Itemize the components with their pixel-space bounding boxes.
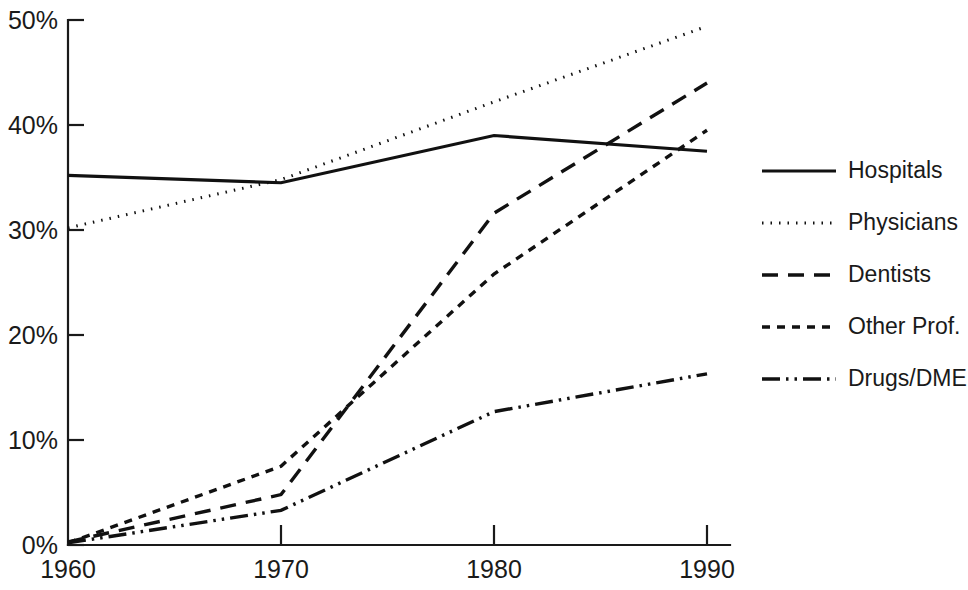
legend-label-drugs-dme: Drugs/DME — [848, 365, 967, 391]
legend-label-physicians: Physicians — [848, 209, 958, 235]
y-axis: 0%10%20%30%40%50% — [8, 6, 84, 559]
line-chart: 0%10%20%30%40%50% 1960197019801990 Hospi… — [0, 0, 968, 590]
series-line-drugs-dme — [68, 374, 707, 543]
legend-label-other-prof: Other Prof. — [848, 313, 960, 339]
y-axis-tick-label: 50% — [8, 6, 58, 34]
chart-legend: HospitalsPhysiciansDentistsOther Prof.Dr… — [762, 157, 967, 391]
series-line-other-prof — [68, 130, 707, 543]
x-axis: 1960197019801990 — [40, 525, 735, 583]
y-axis-tick-label: 20% — [8, 321, 58, 349]
chart-container: 0%10%20%30%40%50% 1960197019801990 Hospi… — [0, 0, 968, 590]
series-line-physicians — [68, 26, 707, 228]
legend-label-dentists: Dentists — [848, 261, 931, 287]
y-axis-tick-label: 10% — [8, 426, 58, 454]
footer-credit-strip — [0, 576, 968, 590]
y-axis-tick-label: 30% — [8, 216, 58, 244]
legend-label-hospitals: Hospitals — [848, 157, 943, 183]
series-line-dentists — [68, 83, 707, 542]
y-axis-tick-label: 40% — [8, 111, 58, 139]
series-lines — [68, 26, 707, 543]
